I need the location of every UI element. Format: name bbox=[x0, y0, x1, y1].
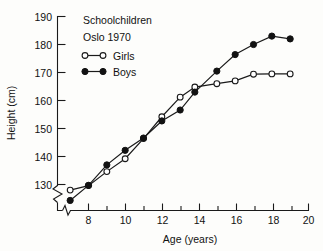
x-tick-label-12: 12 bbox=[157, 214, 169, 226]
filled-circle-icon bbox=[140, 135, 146, 141]
x-tick-label-10: 10 bbox=[120, 214, 132, 226]
filled-circle-icon bbox=[269, 33, 275, 39]
filled-circle-icon bbox=[67, 197, 73, 203]
y-tick-label-130: 130 bbox=[34, 179, 52, 191]
open-circle-icon bbox=[287, 71, 293, 77]
data-series-layer bbox=[67, 33, 293, 204]
y-tick-label-160: 160 bbox=[34, 95, 52, 107]
open-circle-icon bbox=[67, 187, 73, 193]
legend-boys-label: Boys bbox=[113, 66, 136, 78]
series-line-boys bbox=[70, 36, 290, 200]
open-circle-icon bbox=[269, 71, 275, 77]
chart-title-block: Schoolchildren Oslo 1970 bbox=[83, 14, 152, 43]
series-line-girls bbox=[70, 74, 290, 190]
filled-circle-icon bbox=[232, 51, 238, 57]
filled-circle-icon bbox=[192, 89, 198, 95]
height-growth-chart: 190 180 170 160 150 140 130 Height (cm) bbox=[0, 0, 323, 251]
filled-circle-icon bbox=[177, 107, 183, 113]
x-tick-label-8: 8 bbox=[86, 214, 92, 226]
x-tick-label-20: 20 bbox=[303, 214, 315, 226]
x-tick-label-16: 16 bbox=[231, 214, 243, 226]
y-axis: 190 180 170 160 150 140 130 Height (cm) bbox=[5, 11, 66, 203]
legend-item-girls: Girls bbox=[82, 50, 134, 62]
y-tick-label-190: 190 bbox=[34, 11, 52, 23]
chart-subtitle: Oslo 1970 bbox=[83, 31, 131, 43]
y-tick-label-140: 140 bbox=[34, 151, 52, 163]
open-circle-icon bbox=[104, 169, 110, 175]
x-axis-break-icon bbox=[63, 206, 71, 216]
y-tick-label-150: 150 bbox=[34, 123, 52, 135]
open-circle-icon bbox=[82, 53, 88, 59]
x-axis-title: Age (years) bbox=[163, 233, 217, 245]
x-axis-origin-stub bbox=[58, 203, 63, 211]
y-axis-title: Height (cm) bbox=[5, 86, 17, 140]
chart-title: Schoolchildren bbox=[83, 14, 152, 26]
filled-circle-icon bbox=[104, 162, 110, 168]
legend-item-boys: Boys bbox=[82, 66, 136, 78]
y-tick-label-170: 170 bbox=[34, 67, 52, 79]
open-circle-icon bbox=[100, 53, 106, 59]
filled-circle-icon bbox=[250, 41, 256, 47]
open-circle-icon bbox=[251, 71, 257, 77]
filled-circle-icon bbox=[159, 118, 165, 124]
x-tick-label-14: 14 bbox=[194, 214, 206, 226]
filled-circle-icon bbox=[287, 36, 293, 42]
filled-circle-icon bbox=[214, 68, 220, 74]
filled-circle-icon bbox=[85, 182, 91, 188]
legend-girls-label: Girls bbox=[113, 50, 135, 62]
series-girls bbox=[67, 71, 293, 193]
y-tick-label-180: 180 bbox=[34, 39, 52, 51]
filled-circle-icon bbox=[82, 68, 88, 74]
chart-canvas: 190 180 170 160 150 140 130 Height (cm) bbox=[0, 0, 323, 251]
open-circle-icon bbox=[177, 94, 183, 100]
open-circle-icon bbox=[122, 156, 128, 162]
x-tick-label-18: 18 bbox=[268, 214, 280, 226]
open-circle-icon bbox=[232, 78, 238, 84]
series-boys bbox=[67, 33, 293, 204]
chart-legend: Girls Boys bbox=[82, 50, 136, 78]
open-circle-icon bbox=[214, 81, 220, 87]
filled-circle-icon bbox=[100, 68, 106, 74]
x-axis: 8 10 12 14 16 18 20 Age (years) bbox=[58, 203, 315, 246]
filled-circle-icon bbox=[122, 147, 128, 153]
y-axis-break-icon bbox=[53, 186, 62, 203]
